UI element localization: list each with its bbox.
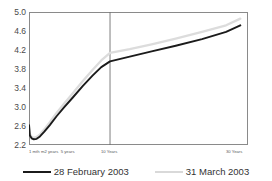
chart-legend: 28 February 2003 31 March 2003 (0, 162, 272, 181)
legend-label: 28 February 2003 (54, 166, 129, 177)
y-axis-tick-label: 4.2 (2, 46, 26, 55)
plot-area (29, 12, 248, 145)
x-axis-tick-label: m2 years (41, 149, 58, 154)
yield-curve-chart: 5.04.64.23.83.43.02.62.2 1 mthm2 years5 … (0, 0, 272, 181)
plot-border (30, 13, 248, 145)
legend-item-28-february-2003: 28 February 2003 (23, 166, 129, 177)
x-axis-tick-label: 10 Years (101, 149, 117, 154)
series-line-28-february-2003 (29, 25, 240, 139)
x-axis-tick-label: 5 years (61, 149, 75, 154)
y-axis-tick-label: 4.6 (2, 27, 26, 36)
legend-item-31-march-2003: 31 March 2003 (155, 166, 249, 177)
x-axis-tick-label: 1 mth (29, 149, 39, 154)
x-axis-tick-label: 30 Years (226, 149, 242, 154)
y-axis-tick-label: 3.0 (2, 103, 26, 112)
y-axis-tick-label: 3.8 (2, 65, 26, 74)
y-axis-tick-label: 2.6 (2, 122, 26, 131)
y-axis-tick-label: 3.4 (2, 84, 26, 93)
plot-svg (29, 12, 248, 145)
legend-label: 31 March 2003 (186, 166, 249, 177)
legend-swatch-icon (155, 171, 183, 173)
x-axis: 1 mthm2 years5 years10 Years30 Years (0, 147, 272, 159)
y-axis-tick-label: 5.0 (2, 8, 26, 17)
legend-swatch-icon (23, 171, 51, 173)
